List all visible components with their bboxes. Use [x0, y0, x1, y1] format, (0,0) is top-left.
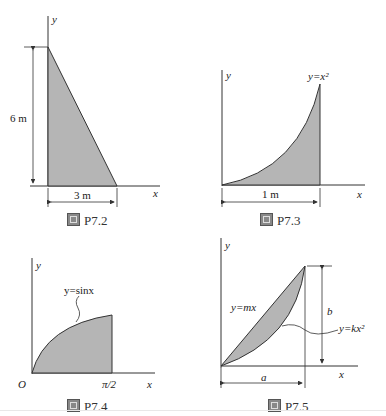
line-label: y=mx [231, 302, 256, 313]
figure-caption: P7.5 [268, 399, 308, 415]
triangle-area [48, 47, 117, 186]
y-axis-label: y [226, 70, 231, 81]
curve-label: y=kx² [339, 323, 364, 334]
x-axis-label: x [339, 369, 344, 380]
base-label: 1 m [262, 189, 279, 200]
figure-p7-5 [221, 238, 358, 388]
figure-icon [67, 213, 80, 226]
figure-icon [260, 213, 273, 226]
figure-caption: P7.4 [67, 399, 107, 415]
lens-area [221, 266, 305, 366]
curve-label: y=sinx [64, 285, 94, 296]
figures-canvas [0, 0, 386, 416]
y-axis-label: y [36, 260, 41, 271]
x-axis-label: x [153, 188, 158, 199]
height-label: 6 m [10, 113, 27, 124]
parabola-area [222, 84, 320, 185]
x-end-label: π/2 [102, 379, 116, 390]
divider [0, 410, 386, 411]
curve-label: y=x² [308, 71, 329, 82]
a-label: a [261, 372, 267, 383]
leader-line [282, 325, 338, 334]
b-label: b [327, 306, 333, 317]
origin-label: O [18, 379, 26, 390]
figure-p7-4 [32, 258, 155, 374]
x-axis-label: x [147, 379, 152, 390]
figure-p7-2 [24, 16, 160, 207]
base-label: 3 m [74, 190, 91, 201]
figure-caption: P7.2 [67, 213, 107, 229]
y-axis-label: y [225, 240, 230, 251]
sine-area [32, 315, 112, 373]
y-axis-label: y [52, 14, 57, 25]
figure-caption: P7.3 [260, 213, 300, 229]
leader-line [76, 296, 80, 322]
x-axis-label: x [357, 189, 362, 200]
figure-p7-3 [222, 70, 365, 207]
